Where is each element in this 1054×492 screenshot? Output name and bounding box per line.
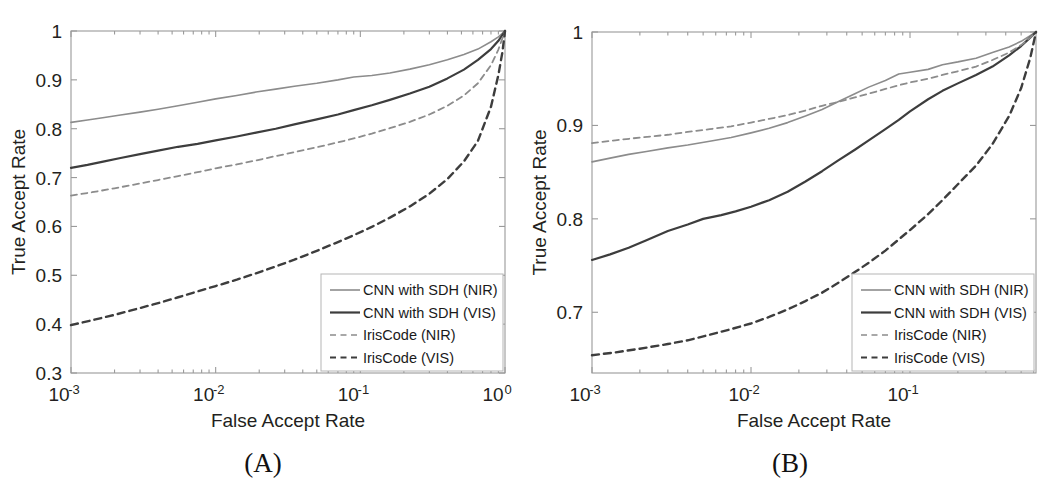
y-tick-label: 0.8	[36, 119, 62, 140]
y-tick-label: 0.4	[36, 314, 63, 335]
x-tick-label: 10	[887, 384, 908, 405]
x-tick-label: 10	[728, 384, 749, 405]
x-tick-exponent: 0	[504, 382, 511, 397]
legend-label: IrisCode (NIR)	[363, 327, 456, 343]
x-axis-title: False Accept Rate	[211, 410, 365, 431]
y-axis-title: True Accept Rate	[529, 129, 550, 275]
y-tick-label: 1	[572, 22, 583, 43]
roc-figure: 0.30.40.50.60.70.80.9110-310-210-1100Fal…	[0, 0, 1054, 492]
series-line	[71, 31, 505, 168]
legend-label: CNN with SDH (VIS)	[363, 305, 496, 321]
series-line	[592, 32, 1036, 143]
x-tick-exponent: -2	[748, 382, 760, 397]
y-tick-label: 0.9	[557, 115, 583, 136]
y-tick-label: 0.5	[36, 265, 62, 286]
x-tick-label: 10	[193, 384, 214, 405]
panel-a-plot: 0.30.40.50.60.70.80.9110-310-210-1100Fal…	[0, 0, 527, 492]
legend-label: IrisCode (VIS)	[894, 350, 985, 366]
panel-b-plot: 0.70.80.9110-310-210-1False Accept RateT…	[527, 0, 1054, 492]
x-axis-title: False Accept Rate	[737, 410, 891, 431]
y-tick-label: 0.9	[36, 70, 62, 91]
legend-label: CNN with SDH (NIR)	[363, 282, 498, 298]
x-tick-label: 10	[482, 384, 503, 405]
y-tick-label: 0.8	[557, 209, 583, 230]
y-axis-title: True Accept Rate	[8, 129, 29, 275]
legend-label: IrisCode (VIS)	[363, 350, 454, 366]
x-tick-label: 10	[338, 384, 359, 405]
x-tick-exponent: -1	[358, 382, 370, 397]
x-tick-exponent: -1	[907, 382, 919, 397]
y-tick-label: 0.7	[557, 302, 583, 323]
x-tick-exponent: -3	[589, 382, 601, 397]
panel-caption: (B)	[772, 448, 808, 478]
panel-caption: (A)	[244, 448, 281, 478]
legend-label: IrisCode (NIR)	[894, 327, 987, 343]
x-tick-label: 10	[48, 384, 69, 405]
series-line	[592, 32, 1036, 162]
x-tick-exponent: -3	[68, 382, 80, 397]
y-tick-label: 0.3	[36, 363, 62, 384]
x-tick-label: 10	[569, 384, 590, 405]
x-tick-exponent: -2	[213, 382, 225, 397]
legend-label: CNN with SDH (VIS)	[894, 305, 1027, 321]
legend-label: CNN with SDH (NIR)	[894, 282, 1029, 298]
series-line	[592, 32, 1036, 260]
panel-b: 0.70.80.9110-310-210-1False Accept RateT…	[527, 0, 1054, 492]
y-tick-label: 0.7	[36, 168, 62, 189]
y-tick-label: 0.6	[36, 216, 62, 237]
panel-a: 0.30.40.50.60.70.80.9110-310-210-1100Fal…	[0, 0, 527, 492]
y-tick-label: 1	[51, 21, 62, 42]
